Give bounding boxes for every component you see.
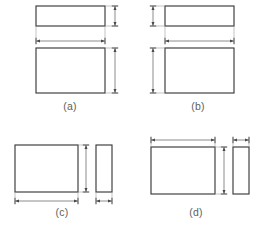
panel-d: (d) — [151, 137, 249, 218]
dimension-c-height-dimension — [78, 145, 89, 192]
dimension-a-height-dimension — [105, 48, 118, 93]
shape-group-d-front-view-rectangle — [151, 147, 215, 194]
dimension-b-thickness-dimension — [150, 6, 165, 26]
dimension-a-thickness-dimension — [105, 6, 118, 26]
top-view-rectangle — [36, 6, 105, 26]
dimension-a-width-dimension — [36, 26, 105, 44]
shape-group-a-front-view-rectangle — [36, 48, 105, 93]
drawing-canvas: (a)(b)(c)(d) — [0, 0, 266, 235]
panel-label-d: (d) — [189, 206, 203, 218]
dimension-d-depth-dimension — [233, 137, 249, 147]
shape-group-b-top-view-rectangle — [165, 6, 234, 26]
panel-c: (c) — [15, 145, 112, 218]
shape-group-a-top-view-rectangle — [36, 6, 105, 26]
dimension-c-depth-dimension — [96, 192, 112, 204]
shape-group-d-side-view-rectangle — [233, 147, 249, 194]
front-view-rectangle — [165, 48, 234, 93]
panel-a: (a) — [36, 6, 118, 112]
dimension-b-width-dimension — [165, 26, 234, 44]
panel-label-b: (b) — [191, 100, 205, 112]
side-view-rectangle — [96, 145, 112, 192]
shape-group-c-front-view-rectangle — [15, 145, 78, 192]
dimension-c-width-dimension — [15, 192, 78, 204]
front-view-rectangle — [36, 48, 105, 93]
front-view-rectangle — [15, 145, 78, 192]
panel-b: (b) — [150, 6, 234, 112]
panel-label-a: (a) — [63, 100, 77, 112]
shape-group-b-front-view-rectangle — [165, 48, 234, 93]
dimension-d-height-dimension — [215, 147, 227, 194]
dimension-d-width-dimension — [151, 137, 215, 147]
shape-group-c-side-view-rectangle — [96, 145, 112, 192]
front-view-rectangle — [151, 147, 215, 194]
panel-label-c: (c) — [55, 206, 68, 218]
dimension-b-height-dimension — [150, 48, 165, 93]
top-view-rectangle — [165, 6, 234, 26]
side-view-rectangle — [233, 147, 249, 194]
technical-drawing-figure: (a)(b)(c)(d) — [0, 0, 266, 235]
